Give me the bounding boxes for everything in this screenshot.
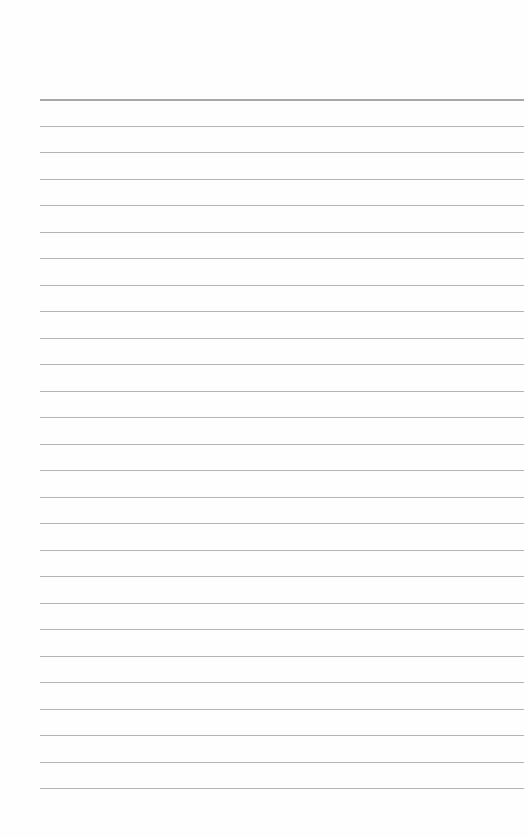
ruled-line xyxy=(40,444,524,445)
ruled-line xyxy=(40,629,524,630)
ruled-line xyxy=(40,576,524,577)
ruled-line xyxy=(40,788,524,789)
ruled-line xyxy=(40,152,524,153)
ruled-line xyxy=(40,205,524,206)
ruled-line xyxy=(40,709,524,710)
ruled-line xyxy=(40,311,524,312)
ruled-line xyxy=(40,391,524,392)
ruled-line xyxy=(40,99,524,101)
ruled-line xyxy=(40,232,524,233)
ruled-line xyxy=(40,126,524,127)
ruled-line xyxy=(40,338,524,339)
ruled-line xyxy=(40,285,524,286)
ruled-line xyxy=(40,258,524,259)
ruled-line xyxy=(40,179,524,180)
ruled-line xyxy=(40,656,524,657)
ruled-line xyxy=(40,470,524,471)
ruled-line xyxy=(40,497,524,498)
lined-paper-sheet xyxy=(0,0,529,838)
ruled-line xyxy=(40,762,524,763)
ruled-line xyxy=(40,682,524,683)
ruled-line xyxy=(40,523,524,524)
ruled-line xyxy=(40,603,524,604)
ruled-line xyxy=(40,417,524,418)
ruled-line xyxy=(40,550,524,551)
ruled-line xyxy=(40,364,524,365)
ruled-line xyxy=(40,735,524,736)
